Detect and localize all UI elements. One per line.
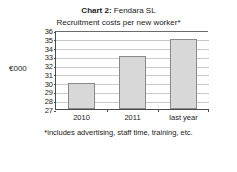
- y-tick-label: 34: [45, 46, 53, 54]
- y-axis-label: €000: [9, 64, 27, 73]
- y-tick-mark: [54, 102, 56, 103]
- y-tick-mark: [54, 93, 56, 94]
- y-tick-mark: [54, 111, 56, 112]
- y-tick-mark: [54, 40, 56, 41]
- y-tick-mark: [54, 58, 56, 59]
- y-tick-label: 30: [45, 81, 53, 89]
- bar: [68, 83, 96, 109]
- x-tick-label: last year: [169, 113, 197, 122]
- chart-title-separator: :: [109, 6, 112, 15]
- y-tick-label: 28: [45, 98, 53, 106]
- chart-title-company: Fendara SL: [114, 6, 156, 15]
- y-tick-label: 36: [45, 28, 53, 36]
- x-tick-label: 2011: [124, 113, 140, 122]
- chart-title-block: Chart 2: Fendara SL Recruitment costs pe…: [0, 5, 237, 28]
- y-tick-mark: [54, 67, 56, 68]
- y-tick-mark: [54, 32, 56, 33]
- y-tick-label: 29: [45, 90, 53, 98]
- chart-subtitle: Recruitment costs per new worker*: [0, 17, 237, 28]
- y-tick-label: 35: [45, 37, 53, 45]
- y-tick-mark: [54, 75, 56, 76]
- plot-area: 2728293031323334353620102011last year: [55, 31, 208, 110]
- y-tick-label: 32: [45, 63, 53, 71]
- chart-figure: Chart 2: Fendara SL Recruitment costs pe…: [0, 0, 237, 172]
- chart-footnote: *includes advertising, staff time, train…: [0, 128, 237, 137]
- y-tick-label: 31: [45, 72, 53, 80]
- plot-wrapper: 2728293031323334353620102011last year: [55, 31, 208, 110]
- y-tick-label: 27: [45, 107, 53, 115]
- bar: [170, 39, 198, 109]
- bar: [119, 56, 147, 109]
- x-tick-label: 2010: [73, 113, 90, 122]
- x-axis-end-tick: [208, 109, 209, 112]
- chart-title-prefix: Chart 2: [81, 6, 109, 15]
- x-tick-mark: [107, 109, 108, 112]
- y-tick-label: 33: [45, 55, 53, 63]
- x-tick-mark: [158, 109, 159, 112]
- y-tick-mark: [54, 49, 56, 50]
- chart-title: Chart 2: Fendara SL: [0, 5, 237, 16]
- y-tick-mark: [54, 84, 56, 85]
